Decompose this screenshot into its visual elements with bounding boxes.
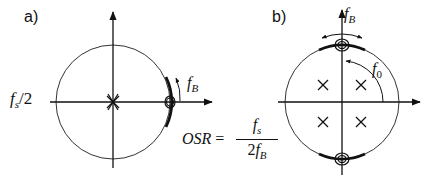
fs-half-label: fs/2 [10, 89, 32, 109]
osr-numerator: fs [236, 116, 278, 134]
osr-text: OSR [182, 130, 211, 147]
pole-zero-diagrams [0, 0, 432, 183]
fs-rest: /2 [19, 89, 32, 108]
den-sub: B [260, 149, 267, 161]
diagram-root: a) fs/2 fB b) fB f0 OSR = fs 2fB [0, 0, 432, 183]
fb-sub-b: B [348, 13, 355, 25]
fb-sub: B [191, 82, 198, 94]
fb-arrow-icon [176, 78, 180, 101]
fraction-bar [236, 139, 278, 140]
panel-a-label: a) [24, 8, 38, 26]
fb-label-b: fB [344, 5, 355, 23]
fs-sub: s [15, 98, 19, 110]
osr-lhs: OSR = [182, 130, 224, 148]
panel-b [278, 10, 420, 175]
f0-sub: 0 [376, 68, 382, 80]
f0-label: f0 [372, 60, 382, 78]
num-sub: s [257, 124, 261, 136]
fb-label-a: fB [187, 74, 198, 92]
panel-b-label: b) [272, 8, 286, 26]
osr-denominator: 2fB [234, 141, 280, 159]
equals-sign: = [215, 130, 224, 147]
